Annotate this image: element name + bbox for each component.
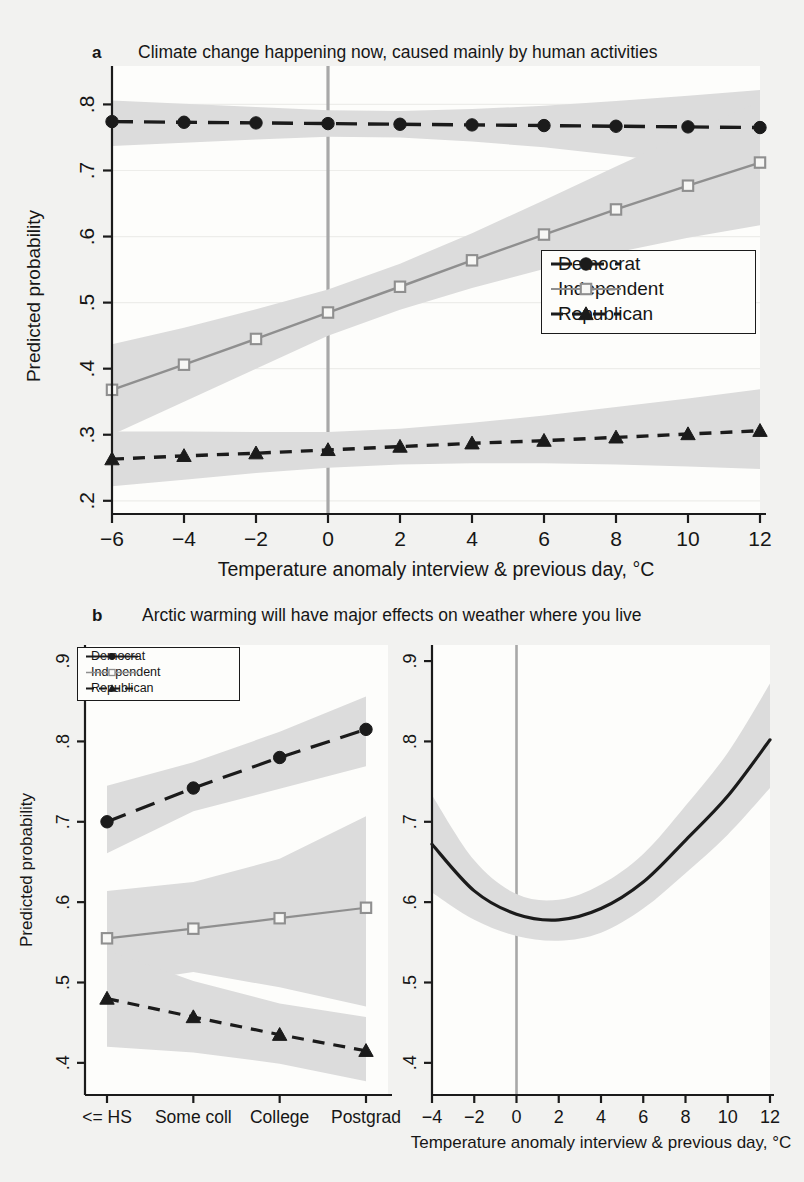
x-tick-label: 6 [538, 527, 550, 550]
marker-democrat [610, 120, 622, 132]
marker-democrat [187, 782, 199, 794]
b-right-x-axis-title: Temperature anomaly interview & previous… [411, 1133, 792, 1152]
x-tick-label: 10 [718, 1107, 738, 1127]
legend-key-independent [84, 665, 140, 680]
marker-independent [467, 255, 477, 265]
marker-independent [611, 204, 621, 214]
panel-a: a Climate change happening now, caused m… [0, 0, 804, 575]
y-tick-label: .8 [75, 96, 98, 114]
legend-marker [580, 257, 592, 269]
y-axis-title: Predicted probability [23, 209, 44, 382]
x-tick-label: −6 [100, 527, 124, 550]
x-tick-label: 12 [748, 527, 771, 550]
marker-democrat [250, 117, 262, 129]
y-tick-label: .4 [75, 360, 98, 378]
panel-a-legend: DemocratIndependentRepublican [541, 250, 756, 334]
x-tick-label: 12 [760, 1107, 780, 1127]
legend-key-independent [549, 277, 623, 301]
legend-marker [109, 669, 115, 675]
y-tick-label: .6 [75, 228, 98, 246]
y-tick-label: .5 [53, 975, 73, 990]
x-tick-label: −4 [172, 527, 196, 550]
x-axis-title: Temperature anomaly interview & previous… [218, 558, 655, 580]
legend-marker [581, 283, 591, 293]
marker-independent [323, 307, 333, 317]
marker-independent [179, 360, 189, 370]
marker-independent [395, 282, 405, 292]
marker-democrat [101, 816, 113, 828]
marker-democrat [360, 723, 372, 735]
y-tick-label: .5 [75, 294, 98, 312]
x-tick-label: 8 [680, 1107, 690, 1127]
y-tick-label: .9 [400, 654, 420, 669]
x-tick-label: 10 [676, 527, 699, 550]
marker-democrat [466, 119, 478, 131]
marker-democrat [322, 117, 334, 129]
y-tick-label: .7 [53, 814, 73, 829]
legend-key-republican [549, 302, 623, 326]
x-tick-label: 8 [610, 527, 622, 550]
legend-item-democrat: Democrat [542, 251, 755, 276]
x-tick-label: <= HS [82, 1107, 132, 1127]
marker-independent [274, 913, 284, 923]
x-tick-label: 6 [638, 1107, 648, 1127]
legend-marker [109, 653, 116, 660]
b-left-y-axis-title: Predicted probability [17, 792, 36, 947]
y-tick-label: .4 [53, 1055, 73, 1070]
marker-independent [361, 903, 371, 913]
marker-democrat [178, 116, 190, 128]
y-tick-label: .3 [75, 426, 98, 444]
x-tick-label: Postgrad [331, 1107, 401, 1127]
marker-independent [755, 157, 765, 167]
marker-democrat [682, 121, 694, 133]
marker-independent [251, 334, 261, 344]
x-tick-label: −2 [464, 1107, 485, 1127]
y-tick-label: .9 [53, 654, 73, 669]
marker-democrat [273, 751, 285, 763]
y-tick-label: .2 [75, 492, 98, 510]
x-tick-label: Some coll [155, 1107, 232, 1127]
legend-item-independent: Independent [542, 276, 755, 301]
marker-independent [539, 229, 549, 239]
y-tick-label: .8 [53, 734, 73, 749]
legend-key-democrat [549, 252, 623, 276]
x-tick-label: −4 [422, 1107, 443, 1127]
x-tick-label: 2 [554, 1107, 564, 1127]
x-tick-label: 4 [596, 1107, 606, 1127]
x-tick-label: 2 [394, 527, 406, 550]
legend-item-republican: Republican [78, 680, 239, 696]
panel-b-legend: DemocratIndependentRepublican [77, 647, 240, 701]
legend-key-democrat [84, 649, 140, 664]
panel-b: b Arctic warming will have major effects… [0, 585, 804, 1182]
x-tick-label: 4 [466, 527, 478, 550]
x-tick-label: −2 [244, 527, 268, 550]
y-tick-label: .6 [400, 895, 420, 910]
legend-item-republican: Republican [542, 301, 755, 326]
marker-independent [188, 923, 198, 933]
legend-item-independent: Independent [78, 664, 239, 680]
marker-democrat [754, 121, 766, 133]
y-tick-label: .6 [53, 895, 73, 910]
y-tick-label: .7 [75, 162, 98, 180]
legend-key-republican [84, 681, 140, 696]
marker-democrat [394, 118, 406, 130]
x-tick-label: 0 [511, 1107, 521, 1127]
y-tick-label: .7 [400, 814, 420, 829]
legend-item-democrat: Democrat [78, 648, 239, 664]
x-tick-label: College [250, 1107, 309, 1127]
y-tick-label: .8 [400, 734, 420, 749]
y-tick-label: .4 [400, 1055, 420, 1070]
marker-independent [102, 933, 112, 943]
y-tick-label: .5 [400, 975, 420, 990]
figure-root: a Climate change happening now, caused m… [0, 0, 804, 1182]
marker-democrat [538, 119, 550, 131]
marker-independent [683, 180, 693, 190]
x-tick-label: 0 [322, 527, 334, 550]
